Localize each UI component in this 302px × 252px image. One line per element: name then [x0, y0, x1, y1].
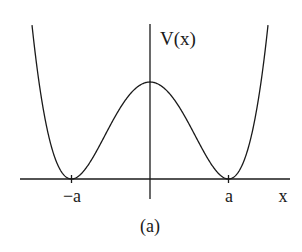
figure-caption: (a)	[140, 216, 160, 237]
x-axis-label: x	[279, 186, 288, 206]
y-axis-label: V(x)	[160, 28, 196, 50]
tick-label-a: a	[225, 186, 233, 206]
double-well-diagram: V(x) −a a x (a)	[0, 0, 302, 252]
tick-label-minus-a: −a	[63, 186, 81, 206]
